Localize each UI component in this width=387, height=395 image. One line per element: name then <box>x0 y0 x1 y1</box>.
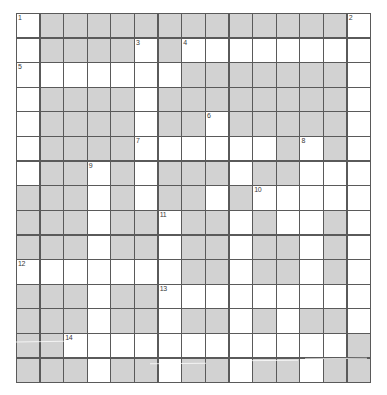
grid-cell-open[interactable] <box>159 236 181 259</box>
grid-cell-open[interactable] <box>348 63 370 86</box>
grid-cell-open[interactable] <box>206 137 228 160</box>
grid-cell-open[interactable] <box>230 285 252 308</box>
grid-cell-open[interactable] <box>159 334 181 357</box>
grid-cell-open[interactable] <box>206 285 228 308</box>
grid-cell-open[interactable] <box>277 285 299 308</box>
grid-cell-open[interactable] <box>324 334 346 357</box>
grid-cell-open[interactable] <box>182 285 204 308</box>
grid-cell-open[interactable] <box>253 285 275 308</box>
grid-cell-open[interactable] <box>348 236 370 259</box>
grid-cell-open[interactable] <box>348 162 370 185</box>
grid-cell-open[interactable] <box>230 137 252 160</box>
grid-cell-open[interactable] <box>324 285 346 308</box>
grid-cell-open[interactable] <box>300 211 322 234</box>
grid-cell-open[interactable]: 7 <box>135 137 157 160</box>
grid-cell-open[interactable] <box>348 285 370 308</box>
grid-cell-open[interactable] <box>348 260 370 283</box>
grid-cell-open[interactable] <box>88 359 110 382</box>
grid-cell-open[interactable] <box>230 260 252 283</box>
grid-cell-open[interactable] <box>348 309 370 332</box>
grid-cell-open[interactable] <box>300 260 322 283</box>
grid-cell-open[interactable] <box>111 260 133 283</box>
grid-cell-open[interactable] <box>159 63 181 86</box>
grid-cell-open[interactable] <box>300 236 322 259</box>
grid-cell-open[interactable] <box>111 63 133 86</box>
grid-cell-open[interactable] <box>135 88 157 111</box>
grid-cell-open[interactable]: 4 <box>182 39 204 62</box>
grid-cell-open[interactable] <box>41 260 63 283</box>
grid-cell-open[interactable] <box>64 260 86 283</box>
grid-cell-open[interactable]: 9 <box>88 162 110 185</box>
grid-cell-open[interactable] <box>348 112 370 135</box>
grid-cell-open[interactable] <box>253 39 275 62</box>
grid-cell-open[interactable] <box>135 162 157 185</box>
grid-cell-open[interactable] <box>88 211 110 234</box>
grid-cell-open[interactable]: 14 <box>64 334 86 357</box>
grid-cell-open[interactable] <box>17 112 39 135</box>
grid-cell-open[interactable] <box>88 260 110 283</box>
grid-cell-open[interactable] <box>300 334 322 357</box>
grid-cell-open[interactable] <box>182 137 204 160</box>
grid-cell-open[interactable] <box>88 285 110 308</box>
grid-cell-open[interactable] <box>159 137 181 160</box>
grid-cell-open[interactable] <box>206 334 228 357</box>
grid-cell-open[interactable] <box>324 39 346 62</box>
grid-cell-open[interactable] <box>17 39 39 62</box>
grid-cell-open[interactable] <box>348 39 370 62</box>
grid-cell-open[interactable] <box>230 309 252 332</box>
grid-cell-open[interactable] <box>206 186 228 209</box>
grid-cell-open[interactable]: 1 <box>17 14 39 37</box>
grid-cell-open[interactable] <box>300 186 322 209</box>
grid-cell-open[interactable] <box>111 334 133 357</box>
grid-cell-open[interactable] <box>348 137 370 160</box>
grid-cell-open[interactable] <box>300 359 322 382</box>
grid-cell-open[interactable] <box>88 63 110 86</box>
grid-cell-open[interactable] <box>159 309 181 332</box>
grid-cell-open[interactable] <box>324 186 346 209</box>
grid-cell-open[interactable]: 12 <box>17 260 39 283</box>
grid-cell-open[interactable]: 6 <box>206 112 228 135</box>
grid-cell-open[interactable] <box>206 39 228 62</box>
grid-cell-open[interactable]: 3 <box>135 39 157 62</box>
grid-cell-open[interactable] <box>88 309 110 332</box>
grid-cell-open[interactable] <box>135 112 157 135</box>
grid-cell-open[interactable] <box>41 63 63 86</box>
grid-cell-open[interactable] <box>135 186 157 209</box>
grid-cell-open[interactable] <box>230 211 252 234</box>
grid-cell-open[interactable] <box>17 162 39 185</box>
grid-cell-open[interactable] <box>253 334 275 357</box>
grid-cell-open[interactable] <box>230 162 252 185</box>
grid-cell-open[interactable]: 5 <box>17 63 39 86</box>
grid-cell-open[interactable] <box>230 39 252 62</box>
grid-cell-open[interactable] <box>277 39 299 62</box>
grid-cell-open[interactable]: 2 <box>348 14 370 37</box>
grid-cell-open[interactable] <box>300 285 322 308</box>
grid-cell-open[interactable] <box>159 359 181 382</box>
grid-cell-open[interactable]: 8 <box>300 137 322 160</box>
grid-cell-open[interactable] <box>159 260 181 283</box>
grid-cell-open[interactable] <box>348 186 370 209</box>
grid-cell-open[interactable] <box>277 309 299 332</box>
grid-cell-open[interactable] <box>88 186 110 209</box>
grid-cell-open[interactable] <box>135 63 157 86</box>
grid-cell-open[interactable] <box>230 359 252 382</box>
grid-cell-open[interactable] <box>277 211 299 234</box>
grid-cell-open[interactable] <box>88 334 110 357</box>
grid-cell-open[interactable] <box>17 88 39 111</box>
grid-cell-open[interactable] <box>88 236 110 259</box>
grid-cell-open[interactable]: 13 <box>159 285 181 308</box>
grid-cell-open[interactable] <box>348 88 370 111</box>
grid-cell-open[interactable] <box>300 39 322 62</box>
grid-cell-open[interactable] <box>253 137 275 160</box>
grid-cell-open[interactable] <box>277 186 299 209</box>
grid-cell-open[interactable] <box>348 211 370 234</box>
grid-cell-open[interactable] <box>135 260 157 283</box>
grid-cell-open[interactable] <box>135 334 157 357</box>
grid-cell-open[interactable] <box>230 236 252 259</box>
grid-cell-open[interactable] <box>182 334 204 357</box>
grid-cell-open[interactable] <box>17 137 39 160</box>
grid-cell-open[interactable]: 11 <box>159 211 181 234</box>
grid-cell-open[interactable] <box>230 334 252 357</box>
grid-cell-open[interactable] <box>324 162 346 185</box>
crossword-grid[interactable]: 1234567891011121314 <box>16 13 371 383</box>
